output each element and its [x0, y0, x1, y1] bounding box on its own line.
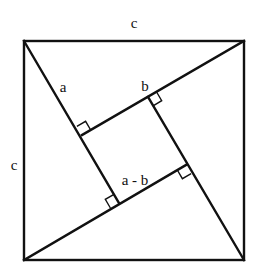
label-left-c: c	[11, 157, 18, 173]
right-angle-marker-bottom	[105, 194, 114, 208]
label-top-c: c	[131, 15, 138, 31]
outer-square	[24, 41, 244, 260]
label-a: a	[60, 79, 67, 95]
label-a-minus-b: a - b	[122, 172, 149, 188]
label-b: b	[141, 78, 149, 94]
right-angle-marker-left	[77, 121, 91, 130]
right-angle-marker-right	[177, 170, 191, 179]
pythagorean-diagram: c c a b a - b	[0, 0, 262, 274]
